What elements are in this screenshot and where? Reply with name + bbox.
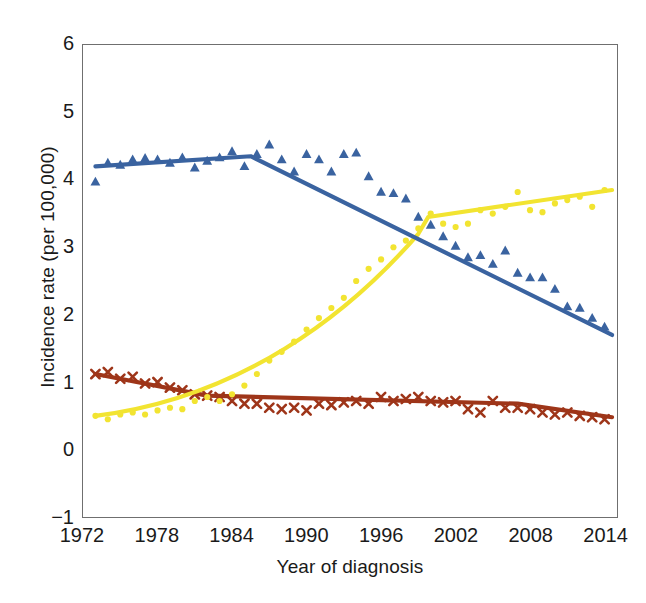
caption-strip-cropped (0, 594, 646, 603)
x-tick-2008: 2008 (508, 524, 553, 546)
y-axis-tick-labels: 6543210−1 (22, 0, 74, 603)
y-tick-4: 4 (28, 168, 74, 188)
x-tick-1996: 1996 (359, 524, 404, 546)
y-tick-2: 2 (28, 304, 74, 324)
x-axis-tick-labels: 19721978198419901996200220082014 (0, 524, 646, 552)
y-tick-3: 3 (28, 236, 74, 256)
x-tick-1990: 1990 (284, 524, 329, 546)
series-darkred (91, 368, 612, 424)
series-canvas (83, 45, 617, 517)
caption-text (0, 594, 646, 603)
y-tick-5: 5 (28, 101, 74, 121)
x-tick-2002: 2002 (434, 524, 479, 546)
y-tick-1: 1 (28, 372, 74, 392)
y-tick-6: 6 (28, 33, 74, 53)
y-tick-0: 0 (28, 439, 74, 459)
x-tick-1984: 1984 (209, 524, 254, 546)
series-blue (90, 140, 612, 335)
x-axis-title: Year of diagnosis (82, 556, 618, 578)
x-tick-1978: 1978 (135, 524, 180, 546)
plot-area (82, 44, 618, 518)
x-tick-1972: 1972 (60, 524, 105, 546)
chart-figure: Incidence rate (per 100,000) Year of dia… (0, 0, 646, 603)
x-tick-2014: 2014 (583, 524, 628, 546)
